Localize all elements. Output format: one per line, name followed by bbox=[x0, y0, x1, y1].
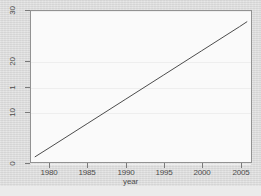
x-axis-tick-label: 2005 bbox=[224, 168, 258, 177]
x-axis-tick-label: 1985 bbox=[70, 168, 104, 177]
y-axis-tick-label: 30 bbox=[8, 0, 17, 23]
y-axis-tick-label: 1 bbox=[8, 76, 17, 100]
x-axis-tick-label: 1990 bbox=[109, 168, 143, 177]
x-axis-tick-label: 1995 bbox=[147, 168, 181, 177]
line-series-trend bbox=[31, 11, 251, 162]
y-axis-tick-label: 0 bbox=[8, 152, 17, 176]
chart-screenshot: 01012030 198019851990199520002005 year bbox=[0, 0, 261, 196]
y-axis-tick-label: 10 bbox=[8, 101, 17, 125]
plot-panel bbox=[30, 10, 252, 163]
x-axis-tick-label: 1980 bbox=[32, 168, 66, 177]
y-axis-tick-label: 20 bbox=[8, 50, 17, 74]
y-axis-tick bbox=[25, 163, 30, 164]
x-axis-tick-label: 2000 bbox=[185, 168, 219, 177]
x-axis-title: year bbox=[0, 177, 261, 186]
gridline bbox=[31, 164, 251, 165]
page-bottom-band bbox=[0, 186, 261, 196]
